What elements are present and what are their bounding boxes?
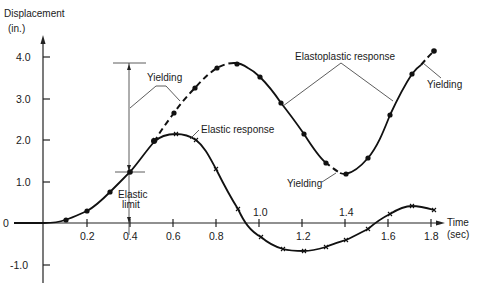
y-tick-1: 1.0 — [16, 176, 31, 188]
elastoplastic-response-curve — [234, 63, 325, 162]
x-tick-0.8: 0.8 — [209, 230, 224, 242]
x-tick-1.6: 1.6 — [381, 230, 396, 242]
elastoplastic-yielding-segment-3 — [421, 51, 434, 65]
x-tick-1.8: 1.8 — [424, 230, 439, 242]
yielding-right-leader — [423, 63, 441, 78]
x-tick-0.2: 0.2 — [80, 230, 95, 242]
yielding-bottom-leader — [322, 173, 336, 182]
annotation-yielding-top: Yielding — [147, 72, 182, 83]
y-tick-4: 4.0 — [16, 51, 31, 63]
y-axis-title: Displacement — [4, 8, 65, 19]
yielding-top-leader — [130, 86, 180, 108]
y-tick-3: 3.0 — [16, 93, 31, 105]
annotation-elastoplastic-response: Elastoplastic response — [295, 51, 395, 62]
annotation-elastic-limit-2: limit — [122, 199, 140, 210]
annotation-yielding-bottom: Yielding — [287, 178, 322, 189]
x-axis-title: Time — [447, 217, 469, 228]
y-tick-0: 0 — [3, 217, 9, 229]
x-tick-1.4: 1.4 — [339, 206, 354, 218]
displacement-time-chart: Displacement (in.) Time (sec) 4.0 3.0 2.… — [0, 0, 485, 293]
x-tick-1.0: 1.0 — [253, 206, 268, 218]
y-axis — [41, 35, 51, 283]
x-tick-1.2: 1.2 — [296, 230, 311, 242]
y-tick-minus-1: -1.0 — [10, 259, 28, 271]
annotation-yielding-right: Yielding — [427, 79, 462, 90]
annotation-elastic-response: Elastic response — [201, 124, 275, 135]
x-tick-0.4: 0.4 — [123, 230, 138, 242]
y-tick-2: 2.0 — [16, 134, 31, 146]
y-axis-unit: (in.) — [8, 23, 25, 34]
elastoplastic-response-curve-2 — [340, 65, 421, 174]
elastic-response-curve — [14, 134, 434, 251]
x-axis-unit: (sec) — [447, 229, 469, 240]
x-tick-0.6: 0.6 — [166, 230, 181, 242]
elastoplastic-leader — [283, 63, 393, 106]
